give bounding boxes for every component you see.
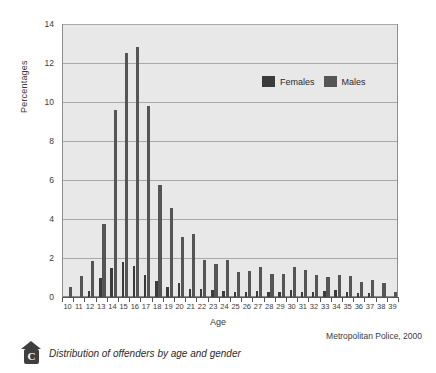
bar-males-age-19 (170, 208, 173, 297)
bar-females-age-14 (110, 268, 113, 297)
figure-container: Percentages 02468101214 Females Males 10… (0, 0, 436, 373)
legend-label-females: Females (280, 77, 315, 87)
bar-females-age-13 (99, 278, 102, 298)
bar-males-age-15 (125, 53, 128, 297)
bar-males-age-14 (114, 110, 117, 297)
y-tick-label: 0 (30, 293, 54, 302)
bar-males-age-28 (270, 274, 273, 297)
bar-males-age-10 (69, 287, 72, 297)
bar-males-age-20 (181, 237, 184, 297)
bar-males-age-32 (315, 275, 318, 297)
bar-males-age-31 (304, 270, 307, 297)
bar-females-age-17 (144, 275, 147, 297)
legend-item-males[interactable]: Males (324, 76, 366, 87)
legend-swatch-females-icon (262, 76, 275, 87)
caption: C Distribution of offenders by age and g… (21, 341, 241, 366)
bar-males-age-18 (158, 185, 161, 297)
chart-legend: Females Males (262, 76, 366, 87)
bar-males-age-21 (192, 234, 195, 297)
bar-females-age-19 (166, 287, 169, 297)
caption-text: Distribution of offenders by age and gen… (49, 348, 241, 359)
badge-letter: C (24, 349, 39, 364)
bar-males-age-22 (203, 260, 206, 297)
x-tick (398, 297, 399, 302)
legend-swatch-males-icon (324, 76, 337, 87)
bar-males-age-24 (226, 260, 229, 297)
bar-males-age-34 (338, 275, 341, 297)
x-axis-title: Age (0, 317, 436, 327)
bar-males-age-17 (147, 106, 150, 297)
bar-males-age-35 (349, 276, 352, 297)
bar-males-age-25 (237, 272, 240, 297)
bar-females-age-34 (334, 290, 337, 297)
y-tick-label: 14 (30, 20, 54, 29)
bar-males-age-27 (259, 267, 262, 297)
source-note: Metropolitan Police, 2000 (326, 331, 422, 341)
y-tick-label: 6 (30, 176, 54, 185)
y-tick-label: 12 (30, 59, 54, 68)
bars-layer (62, 24, 398, 297)
bar-males-age-33 (326, 277, 329, 297)
bar-males-age-12 (91, 261, 94, 297)
caption-badge-house-icon: C (21, 341, 42, 366)
bar-females-age-18 (155, 281, 158, 297)
bar-males-age-11 (80, 276, 83, 297)
y-tick-label: 8 (30, 137, 54, 146)
bar-males-age-16 (136, 47, 139, 297)
bar-males-age-13 (102, 224, 105, 297)
bar-males-age-26 (248, 271, 251, 297)
x-tick-label: 39 (384, 303, 400, 311)
y-tick-label: 4 (30, 215, 54, 224)
y-tick-label: 2 (30, 254, 54, 263)
bar-males-age-36 (360, 282, 363, 297)
badge-roof-shape (21, 341, 41, 349)
y-tick-label: 10 (30, 98, 54, 107)
bar-females-age-22 (200, 289, 203, 297)
bar-males-age-29 (282, 274, 285, 297)
bar-females-age-23 (211, 290, 214, 297)
bar-females-age-16 (133, 266, 136, 297)
bar-males-age-23 (214, 264, 217, 297)
legend-item-females[interactable]: Females (262, 76, 315, 87)
bar-males-age-30 (293, 267, 296, 297)
bar-males-age-38 (382, 283, 385, 297)
bar-males-age-37 (371, 280, 374, 297)
legend-label-males: Males (342, 77, 366, 87)
bar-females-age-21 (189, 289, 192, 297)
y-axis-title: Percentages (19, 60, 29, 113)
